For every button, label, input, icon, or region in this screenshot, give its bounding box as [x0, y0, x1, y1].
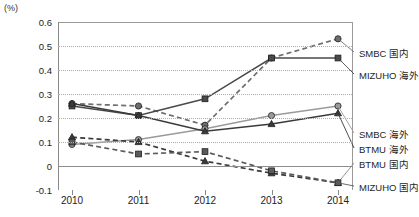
x-axis-tick-label: 2010	[61, 195, 83, 206]
x-axis-tick-label: 2014	[327, 195, 349, 206]
y-axis-tick-label: -0.1	[6, 185, 52, 196]
x-axis-tick-label: 2013	[260, 195, 282, 206]
x-axis-tick-label: 2011	[128, 195, 150, 206]
gridline-horizontal	[58, 94, 352, 95]
legend-item-2[interactable]: SMBC 海外	[359, 127, 409, 141]
legend-item-1[interactable]: MIZUHO 海外	[359, 68, 419, 82]
gridline-horizontal	[58, 142, 352, 143]
y-axis-tick-label: 0.6	[6, 17, 52, 28]
legend-item-5[interactable]: MIZUHO 国内	[359, 180, 419, 194]
legend-item-3[interactable]: BTMU 海外	[359, 142, 409, 156]
y-axis-tick-label: 0.5	[6, 41, 52, 52]
plot-area	[58, 22, 352, 190]
zero-baseline	[58, 166, 352, 167]
gridline-horizontal	[58, 46, 352, 47]
y-axis-tick-label: 0.2	[6, 113, 52, 124]
plot-frame-right	[352, 22, 353, 190]
legend-item-0[interactable]: SMBC 国内	[359, 46, 409, 60]
gridline-horizontal	[58, 118, 352, 119]
y-axis-tick-label: 0.4	[6, 65, 52, 76]
x-axis-tick-label: 2012	[194, 195, 216, 206]
y-axis-tick-label: 0	[6, 161, 52, 172]
legend-item-4[interactable]: BTMU 国内	[359, 157, 409, 171]
y-axis-tick-label: 0.1	[6, 137, 52, 148]
y-axis-tick-label: 0.3	[6, 89, 52, 100]
gridline-horizontal	[58, 70, 352, 71]
y-axis-tick-labels: 0.60.50.40.30.20.10-0.1	[0, 0, 52, 217]
